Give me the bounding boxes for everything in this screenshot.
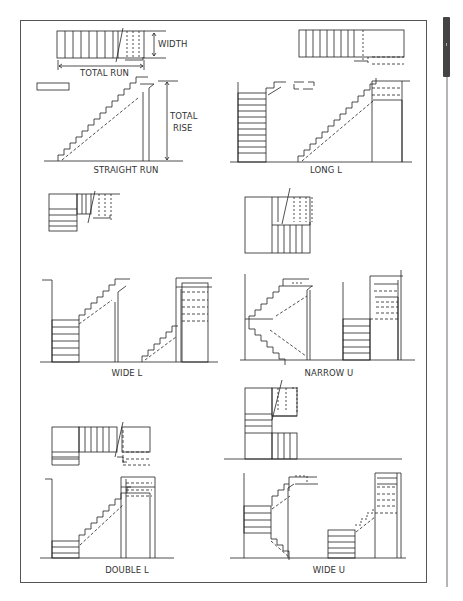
- caption-wide-l: WIDE L: [112, 368, 143, 378]
- scrollbar-thumb[interactable]: [443, 17, 450, 77]
- grip-icon: [446, 43, 447, 46]
- scrollbar-track[interactable]: [446, 17, 448, 587]
- panel-long-l: [230, 30, 412, 162]
- total-rise-label-2: RISE: [173, 123, 193, 133]
- total-rise-label-1: TOTAL: [169, 111, 198, 121]
- width-label: WIDTH: [158, 39, 188, 49]
- total-run-label: TOTAL RUN: [79, 68, 129, 78]
- panel-narrow-u: [240, 188, 415, 365]
- caption-long-l: LONG L: [310, 165, 342, 175]
- staircase-types-diagram: WIDTH TOTAL RUN TOTAL RISE STRAIGHT RUN …: [0, 0, 463, 601]
- caption-narrow-u: NARROW U: [305, 368, 354, 378]
- panel-wide-l: [40, 191, 218, 362]
- caption-wide-u: WIDE U: [313, 565, 345, 575]
- tread-lines: [65, 31, 118, 58]
- caption-straight-run: STRAIGHT RUN: [93, 165, 158, 175]
- panel-wide-u: [224, 380, 406, 560]
- caption-double-l: DOUBLE L: [105, 565, 149, 575]
- panel-double-l: [40, 422, 174, 558]
